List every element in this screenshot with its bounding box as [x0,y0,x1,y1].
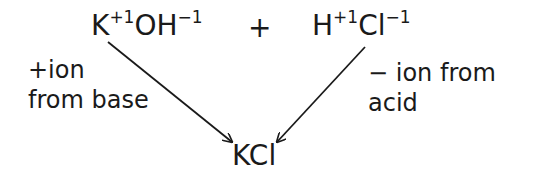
arrow-right-icon [277,47,365,142]
arrows [0,0,537,172]
arrow-left-icon [108,42,232,142]
